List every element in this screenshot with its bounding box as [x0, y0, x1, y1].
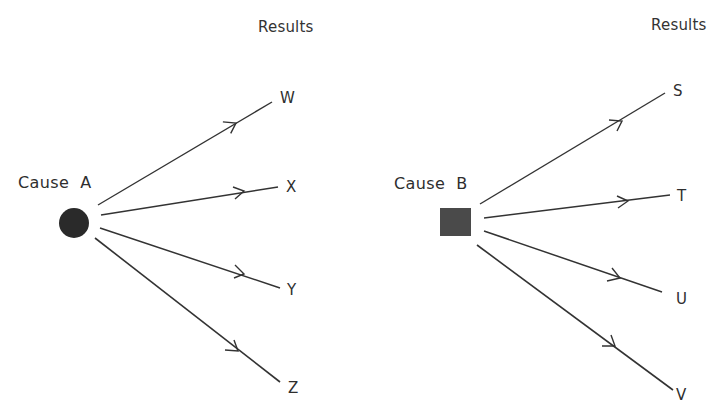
- arrow-b-to-s: [480, 93, 665, 204]
- arrow-b-to-u: [484, 231, 662, 292]
- diagram-canvas: Results Results Cause A Cause B W X Y Z …: [0, 0, 722, 415]
- result-w: W: [280, 89, 295, 107]
- arrow-a-to-w: [98, 102, 272, 205]
- result-z: Z: [288, 379, 299, 397]
- result-v: V: [676, 386, 687, 404]
- cause-word: Cause: [394, 174, 445, 193]
- arrow-a-to-x: [101, 187, 278, 215]
- cause-word: Cause: [18, 173, 69, 192]
- cause-a-label: Cause A: [18, 174, 92, 192]
- result-x: X: [286, 178, 297, 196]
- result-u: U: [676, 290, 687, 308]
- cause-letter: B: [456, 174, 467, 193]
- cause-b-label: Cause B: [394, 175, 468, 193]
- cause-b-node: [440, 208, 471, 236]
- results-heading-right: Results: [651, 16, 707, 34]
- arrow-b-to-v: [477, 245, 673, 390]
- cause-a-node: [59, 208, 89, 238]
- results-heading-left: Results: [258, 18, 314, 36]
- result-s: S: [673, 82, 683, 100]
- result-t: T: [677, 187, 686, 205]
- result-y: Y: [287, 281, 296, 299]
- cause-letter: A: [80, 173, 91, 192]
- arrow-a-to-y: [100, 228, 280, 288]
- arrow-a-to-z: [95, 238, 280, 382]
- causal-arrows: [0, 0, 722, 415]
- arrow-b-to-t: [484, 195, 670, 218]
